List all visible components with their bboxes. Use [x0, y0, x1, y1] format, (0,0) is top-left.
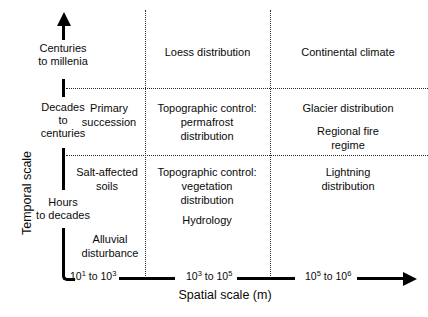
- up-arrow-icon: [57, 12, 71, 26]
- x-tick-3-high-base: 10: [335, 270, 347, 282]
- y-axis-segment-upper: [62, 79, 65, 97]
- cell-top-mid: Loess distribution: [150, 45, 265, 59]
- x-axis-segment-2: [237, 277, 295, 280]
- x-tick-1-high-exp: 3: [112, 269, 116, 278]
- vertical-gridline-2: [270, 10, 271, 280]
- x-tick-2-to: to: [202, 270, 217, 282]
- y-axis-segment-top: [62, 26, 65, 40]
- cell-low-left-salt-affected: Salt-affected soils: [68, 165, 146, 193]
- x-axis-segment-1: [119, 277, 175, 280]
- x-axis-segment-3: [357, 277, 404, 280]
- x-tick-label-2: 103 to 105: [186, 270, 232, 282]
- x-tick-3-to: to: [321, 270, 336, 282]
- x-axis-title: Spatial scale (m): [145, 288, 305, 302]
- cell-low-right-lightning: Lightning distribution: [278, 165, 418, 193]
- x-tick-label-1: 101 to 103: [70, 270, 116, 282]
- y-tier-centuries-to-millenia: Centuries to millenia: [14, 42, 112, 68]
- y-axis-title: Temporal scale: [20, 151, 34, 235]
- cell-low-left-alluvial: Alluvial disturbance: [74, 232, 146, 260]
- cell-mid-left-primary-succession: Primary succession: [75, 101, 143, 129]
- x-tick-1-high-base: 10: [100, 270, 112, 282]
- cell-low-mid-topographic: Topographic control: vegetation distribu…: [148, 165, 266, 207]
- x-tick-3-low-base: 10: [305, 270, 317, 282]
- cell-top-right: Continental climate: [278, 45, 418, 59]
- x-tick-2-high-base: 10: [216, 270, 228, 282]
- scale-matrix-figure: Temporal scale Centuries to millenia Dec…: [0, 0, 428, 317]
- y-tier-hours-to-decades: Hours to decades: [14, 196, 112, 222]
- x-tick-label-3: 105 to 106: [305, 270, 351, 282]
- x-tick-1-to: to: [86, 270, 101, 282]
- x-tick-2-low-base: 10: [186, 270, 198, 282]
- cell-low-mid-hydrology: Hydrology: [148, 213, 266, 227]
- right-arrow-icon: [403, 272, 417, 286]
- y-axis-segment-middle: [62, 148, 65, 190]
- cell-mid-right-regional-fire: Regional fire regime: [278, 124, 418, 152]
- horizontal-gridline-2: [66, 155, 428, 156]
- horizontal-gridline-1: [66, 88, 428, 89]
- x-tick-3-high-exp: 6: [347, 269, 351, 278]
- cell-mid-right-glacier: Glacier distribution: [278, 101, 418, 115]
- y-axis-segment-lower: [62, 228, 65, 272]
- cell-mid-mid: Topographic control: permafrost distribu…: [148, 101, 266, 143]
- x-tick-2-high-exp: 5: [228, 269, 232, 278]
- x-tick-1-low-base: 10: [70, 270, 82, 282]
